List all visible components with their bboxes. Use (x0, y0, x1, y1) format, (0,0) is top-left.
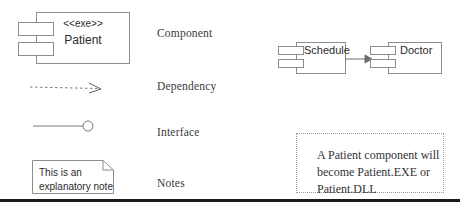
component-tab-upper (278, 46, 304, 55)
dependency-connector-sample (30, 80, 110, 94)
note-patient-exe[interactable]: A Patient component will become Patient.… (296, 133, 444, 193)
legend-label-dependency: Dependency (157, 80, 216, 92)
legend-label-notes: Notes (157, 177, 185, 189)
uml-component-diagram: <<exe>> Patient Component Dependency Int… (0, 0, 460, 208)
component-tab-lower (370, 59, 396, 68)
component-symbol-schedule[interactable]: Schedule (278, 42, 346, 74)
component-tab-upper (18, 22, 54, 36)
component-symbol-doctor[interactable]: Doctor (370, 42, 442, 74)
bottom-divider (0, 199, 460, 202)
component-tab-upper (370, 46, 396, 55)
legend-label-component: Component (157, 27, 212, 39)
association-schedule-to-doctor (345, 52, 373, 66)
note-explanatory[interactable]: This is an explanatory note (32, 160, 114, 194)
component-symbol-patient[interactable]: <<exe>> Patient (18, 12, 130, 64)
note-patient-exe-text: A Patient component will become Patient.… (317, 147, 439, 198)
component-tab-lower (18, 42, 54, 56)
component-name-schedule: Schedule (304, 44, 350, 56)
note-explanatory-text: This is an explanatory note (39, 166, 113, 194)
component-name-doctor: Doctor (400, 44, 432, 56)
component-tab-lower (278, 59, 304, 68)
interface-connector-sample (33, 118, 99, 134)
legend-label-interface: Interface (157, 126, 200, 138)
